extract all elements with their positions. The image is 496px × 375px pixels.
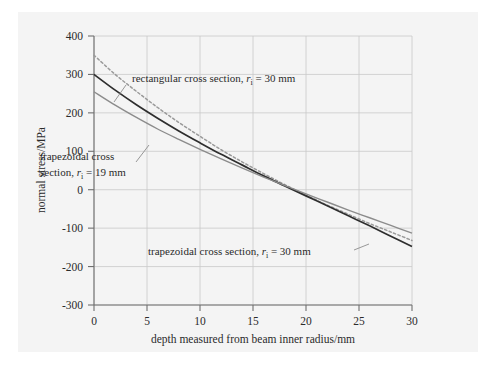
annot-trapezoidal-19-post: = 19 mm [83, 166, 126, 178]
annot-rectangular-pre: rectangular cross section, [132, 72, 246, 84]
y-tick-label: -300 [62, 299, 83, 311]
y-tick-label: 0 [77, 184, 83, 196]
x-tick-label: 30 [406, 315, 418, 327]
figure-panel: 400 300 200 100 0 -100 -200 -300 0 5 10 … [18, 12, 478, 352]
x-axis-title: depth measured from beam inner radius/mm [151, 333, 355, 346]
x-tick-label: 25 [353, 315, 365, 327]
y-tick-label: -100 [62, 222, 83, 234]
figure-root: 400 300 200 100 0 -100 -200 -300 0 5 10 … [0, 0, 496, 375]
y-tick-label: 400 [66, 30, 84, 42]
x-tick-label: 10 [194, 315, 206, 327]
normal-stress-vs-depth-chart: 400 300 200 100 0 -100 -200 -300 0 5 10 … [18, 12, 478, 352]
annot-trapezoidal-30-pre: trapezoidal cross section, [148, 245, 262, 257]
x-tick-label: 5 [144, 315, 150, 327]
y-tick-label: -200 [62, 261, 83, 273]
annot-rectangular-post: = 30 mm [253, 72, 296, 84]
y-tick-label: 300 [66, 68, 84, 80]
chart-background [18, 12, 478, 352]
x-tick-label: 0 [91, 315, 97, 327]
x-tick-label: 20 [300, 315, 312, 327]
annot-trapezoidal-30-post: = 30 mm [268, 245, 311, 257]
annot-trapezoidal-19-pre: section, [40, 166, 77, 178]
y-tick-label: 200 [66, 107, 84, 119]
annot-trapezoidal-19-line1: trapezoidal cross [40, 150, 114, 162]
x-tick-label: 15 [247, 315, 259, 327]
